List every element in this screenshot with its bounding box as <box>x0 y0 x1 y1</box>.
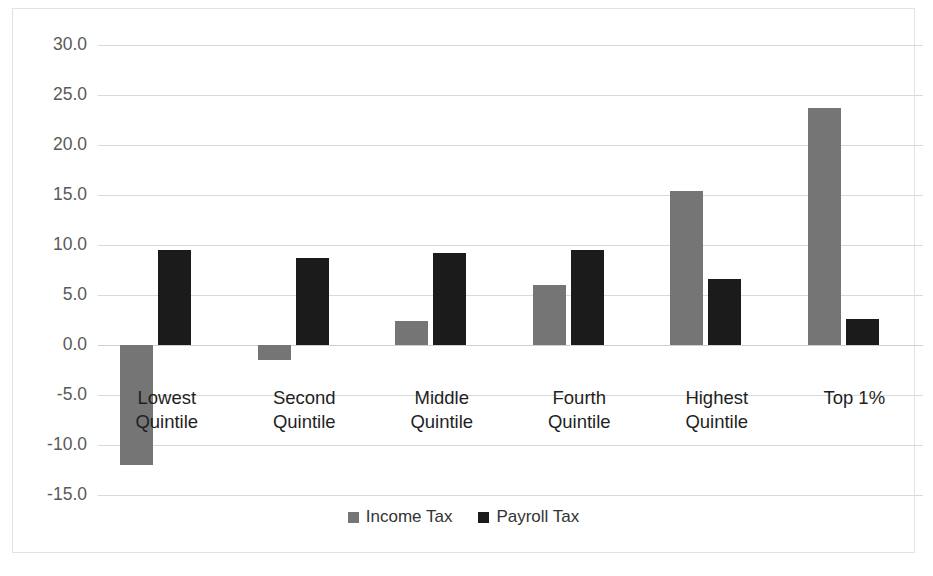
bar-income-tax[interactable] <box>808 108 841 345</box>
y-axis-tick-label: 10.0 <box>23 236 87 254</box>
y-axis-tick-label: 0.0 <box>23 336 87 354</box>
bar-payroll-tax[interactable] <box>571 250 604 345</box>
y-axis-tick-label: -15.0 <box>23 486 87 504</box>
y-axis: 30.025.020.015.010.05.00.0-5.0-10.0-15.0 <box>23 45 87 495</box>
y-axis-tick-label: 25.0 <box>23 86 87 104</box>
gridline <box>98 495 923 496</box>
chart-legend: Income TaxPayroll Tax <box>13 507 914 527</box>
x-axis-category-label: Highest Quintile <box>637 386 797 433</box>
bar-income-tax[interactable] <box>533 285 566 345</box>
x-axis-category-label: Lowest Quintile <box>87 386 247 433</box>
y-axis-tick-label: -10.0 <box>23 436 87 454</box>
legend-swatch-icon <box>478 512 489 523</box>
y-axis-tick-label: 20.0 <box>23 136 87 154</box>
y-axis-tick-label: -5.0 <box>23 386 87 404</box>
bar-income-tax[interactable] <box>395 321 428 345</box>
x-axis-category-label: Top 1% <box>774 386 933 410</box>
bar-payroll-tax[interactable] <box>708 279 741 345</box>
plot-area: Lowest QuintileSecond QuintileMiddle Qui… <box>98 45 923 495</box>
bar-income-tax[interactable] <box>258 345 291 360</box>
chart-container: 30.025.020.015.010.05.00.0-5.0-10.0-15.0… <box>12 8 915 553</box>
y-axis-tick-label: 5.0 <box>23 286 87 304</box>
legend-label: Income Tax <box>366 507 453 527</box>
bar-income-tax[interactable] <box>670 191 703 345</box>
bar-payroll-tax[interactable] <box>433 253 466 345</box>
y-axis-tick-label: 15.0 <box>23 186 87 204</box>
bar-payroll-tax[interactable] <box>296 258 329 345</box>
y-axis-tick-label: 30.0 <box>23 36 87 54</box>
x-axis-category-label: Second Quintile <box>224 386 384 433</box>
legend-label: Payroll Tax <box>496 507 579 527</box>
legend-swatch-icon <box>348 512 359 523</box>
legend-item[interactable]: Payroll Tax <box>478 507 579 527</box>
legend-item[interactable]: Income Tax <box>348 507 453 527</box>
x-axis-category-label: Middle Quintile <box>362 386 522 433</box>
bar-payroll-tax[interactable] <box>846 319 879 345</box>
bar-group <box>786 45 924 495</box>
x-axis-category-label: Fourth Quintile <box>499 386 659 433</box>
bar-payroll-tax[interactable] <box>158 250 191 345</box>
